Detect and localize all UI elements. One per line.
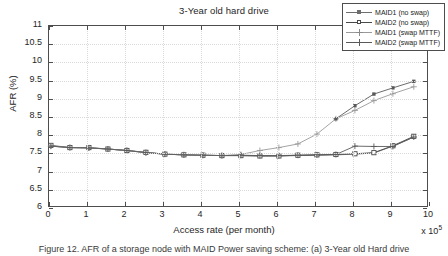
legend-label: MAID1 (no swap) <box>372 9 429 16</box>
x-tick-label: 7 <box>299 209 329 219</box>
gridline-vertical <box>315 26 316 206</box>
x-tick <box>87 202 88 206</box>
y-tick <box>423 190 427 191</box>
x-tick-label: 4 <box>185 209 215 219</box>
gridline-horizontal <box>49 190 427 191</box>
x-tick-label: 8 <box>337 209 367 219</box>
x-tick-label: 1 <box>71 209 101 219</box>
x-tick-label: 10 <box>413 209 443 219</box>
gridline-horizontal <box>49 62 427 63</box>
y-tick <box>423 153 427 154</box>
y-axis-title: AFR (%) <box>7 49 18 139</box>
gridline-vertical <box>125 26 126 206</box>
gridline-horizontal <box>49 135 427 136</box>
data-point-marker <box>411 84 417 90</box>
legend-sample <box>346 37 372 47</box>
y-tick <box>49 190 53 191</box>
gridline-vertical <box>87 26 88 206</box>
y-tick <box>49 26 53 27</box>
x-exponent-prefix: x 10 <box>421 226 438 236</box>
gridline-horizontal <box>49 172 427 173</box>
x-axis-title: Access rate (per month) <box>0 224 448 235</box>
legend-marker-filled-square <box>357 10 360 13</box>
gridline-horizontal <box>49 153 427 154</box>
legend-label: MAID2 (no swap) <box>372 19 429 26</box>
y-tick-label: 10.5 <box>8 37 42 47</box>
x-tick <box>391 202 392 206</box>
gridline-horizontal <box>49 99 427 100</box>
x-tick <box>201 26 202 30</box>
y-tick-label: 7.5 <box>8 146 42 156</box>
y-tick <box>423 135 427 136</box>
x-tick-label: 3 <box>147 209 177 219</box>
legend-marker-open-square <box>357 20 361 24</box>
y-tick <box>423 117 427 118</box>
gridline-vertical <box>239 26 240 206</box>
x-tick-label: 2 <box>109 209 139 219</box>
x-tick <box>277 202 278 206</box>
y-tick <box>49 153 53 154</box>
x-tick <box>353 202 354 206</box>
legend-sample <box>346 17 372 27</box>
y-tick <box>49 99 53 100</box>
y-tick <box>423 172 427 173</box>
figure-caption: Figure 12. AFR of a storage node with MA… <box>0 244 448 256</box>
series-line <box>51 87 414 156</box>
y-tick <box>423 62 427 63</box>
x-tick <box>239 202 240 206</box>
x-tick <box>239 26 240 30</box>
legend-sample <box>346 27 372 37</box>
gridline-horizontal <box>49 81 427 82</box>
x-axis-exponent: x 105 <box>421 224 442 236</box>
x-tick-label: 9 <box>375 209 405 219</box>
y-tick-label: 6 <box>8 201 42 211</box>
x-tick <box>49 202 50 206</box>
y-tick <box>49 172 53 173</box>
x-tick <box>429 202 430 206</box>
x-tick <box>315 26 316 30</box>
figure-container: 3-Year old hard drive 01234567891066.577… <box>0 0 448 256</box>
y-tick <box>49 62 53 63</box>
y-tick <box>423 99 427 100</box>
y-tick <box>49 81 53 82</box>
y-tick-label: 7 <box>8 165 42 175</box>
legend-sample <box>346 7 372 17</box>
x-tick <box>163 26 164 30</box>
x-tick <box>163 202 164 206</box>
gridline-vertical <box>163 26 164 206</box>
y-tick <box>49 44 53 45</box>
y-tick-label: 11 <box>8 19 42 29</box>
x-exponent-value: 5 <box>438 224 442 231</box>
gridline-vertical <box>391 26 392 206</box>
data-point-marker <box>372 92 375 95</box>
gridline-vertical <box>201 26 202 206</box>
data-point-marker <box>371 143 377 149</box>
gridline-horizontal <box>49 117 427 118</box>
legend-marker-plus <box>356 39 363 46</box>
x-tick <box>87 26 88 30</box>
x-tick <box>315 202 316 206</box>
y-tick-label: 6.5 <box>8 183 42 193</box>
legend-item-3[interactable]: MAID2 (swap MTTF) <box>346 37 440 47</box>
legend-label: MAID2 (swap MTTF) <box>372 39 440 46</box>
data-point-marker <box>295 141 301 147</box>
y-tick <box>423 81 427 82</box>
legend-item-2[interactable]: MAID1 (swap MTTF) <box>346 27 440 37</box>
gridline-vertical <box>277 26 278 206</box>
x-tick <box>125 202 126 206</box>
gridline-vertical <box>353 26 354 206</box>
x-tick <box>277 26 278 30</box>
chart-legend[interactable]: MAID1 (no swap)MAID2 (no swap)MAID1 (swa… <box>342 3 445 51</box>
x-tick-label: 6 <box>261 209 291 219</box>
plot-area <box>48 25 428 207</box>
legend-label: MAID1 (swap MTTF) <box>372 29 440 36</box>
legend-marker-plus <box>356 29 363 36</box>
legend-item-0[interactable]: MAID1 (no swap) <box>346 7 440 17</box>
x-tick-label: 5 <box>223 209 253 219</box>
x-tick <box>125 26 126 30</box>
x-tick <box>201 202 202 206</box>
legend-item-1[interactable]: MAID2 (no swap) <box>346 17 440 27</box>
data-series <box>48 84 417 159</box>
y-tick <box>49 117 53 118</box>
y-tick <box>49 135 53 136</box>
